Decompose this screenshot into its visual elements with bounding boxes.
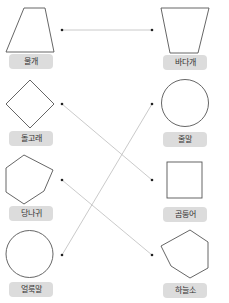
right-dot-2[interactable] — [151, 103, 154, 106]
left-dot-3[interactable] — [61, 179, 64, 182]
circle-shape — [162, 80, 209, 127]
right-dot-1[interactable] — [151, 29, 154, 32]
diamond-shape — [6, 80, 54, 128]
trapezoid-shape — [6, 8, 54, 52]
right-label-sea-dog: 바다개 — [163, 55, 207, 70]
square-shape — [167, 162, 202, 198]
left-label-dolphin: 돌고래 — [9, 131, 53, 146]
left-dot-2[interactable] — [61, 103, 64, 106]
left-label-zebra: 얼룩말 — [9, 282, 53, 297]
connection-line-3 — [62, 180, 152, 255]
right-label-jul-mal: 줄말 — [163, 132, 207, 147]
left-dot-1[interactable] — [61, 29, 64, 32]
left-dot-4[interactable] — [61, 254, 64, 257]
right-dot-4[interactable] — [151, 254, 154, 257]
hexagon-shape — [6, 155, 53, 204]
connection-lines — [62, 30, 152, 255]
left-label-seal: 물개 — [9, 54, 53, 69]
connection-line-4 — [62, 104, 152, 255]
right-label-haneulso: 하늘소 — [163, 283, 207, 298]
right-dot-3[interactable] — [151, 179, 154, 182]
connection-line-2 — [62, 104, 152, 180]
circle-shape — [6, 231, 53, 278]
right-label-gom-dung-eo: 곰둥어 — [163, 207, 207, 222]
hexagon-shape — [161, 230, 208, 278]
matching-diagram — [0, 0, 229, 303]
inverted-trapezoid-shape — [161, 8, 209, 53]
left-label-donkey: 당나귀 — [9, 206, 53, 221]
